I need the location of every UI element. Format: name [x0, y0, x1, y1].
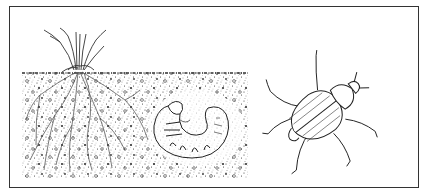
adult-beetle — [236, 33, 398, 196]
soil-cross-section — [22, 72, 248, 178]
grass-tuft — [44, 28, 106, 72]
illustration-canvas — [0, 0, 426, 196]
